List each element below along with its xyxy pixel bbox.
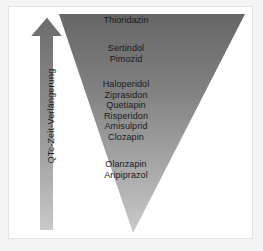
qtc-arrow	[29, 16, 64, 231]
diagram-plot-area: QTc-Zeit-Verlängerung Thioridazin Sertin…	[9, 7, 252, 238]
risk-triangle	[59, 14, 245, 233]
diagram-svg	[9, 7, 252, 238]
figure-container: QTc-Zeit-Verlängerung Thioridazin Sertin…	[0, 0, 263, 251]
